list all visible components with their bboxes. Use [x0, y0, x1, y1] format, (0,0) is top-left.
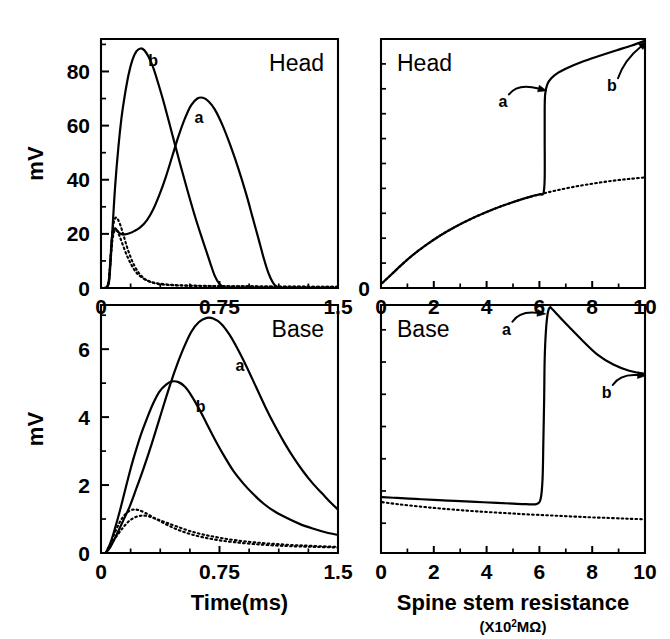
- y-tick-label: 20: [67, 222, 90, 245]
- x-tick-label: 0: [95, 560, 107, 583]
- y-axis-title: mV: [23, 412, 48, 447]
- y-tick-label: 4: [78, 406, 90, 429]
- curve-label-b: b: [196, 398, 206, 415]
- panel-title: Head: [397, 50, 452, 76]
- x-tick-label: 6: [534, 560, 546, 583]
- panel-title: Base: [397, 316, 449, 342]
- figure-canvas: 00.751.5020406080mVHeadba02468100Headab0…: [0, 0, 670, 639]
- annotation-label-b: b: [602, 384, 612, 401]
- x-axis-title-time: Time(ms): [191, 590, 288, 615]
- curve-label-b: b: [148, 52, 158, 69]
- panel-title: Head: [269, 50, 324, 76]
- y-tick-label: 0: [78, 277, 90, 300]
- annotation-label-a: a: [499, 93, 508, 110]
- x-tick-label: 10: [633, 560, 656, 583]
- panel-title: Base: [272, 316, 324, 342]
- y-tick-label: 60: [67, 114, 90, 137]
- annotation-label-a: a: [502, 321, 511, 338]
- y-tick-label: 2: [78, 474, 90, 497]
- x-tick-label: 4: [481, 295, 493, 318]
- units-prefix: (X10: [480, 618, 512, 635]
- figure-root: 00.751.5020406080mVHeadba02468100Headab0…: [0, 0, 670, 639]
- x-tick-label: 2: [428, 295, 440, 318]
- curve-label-a: a: [236, 357, 245, 374]
- annotation-label-b: b: [607, 77, 617, 94]
- x-tick-label: 2: [428, 560, 440, 583]
- curve-label-a: a: [195, 109, 204, 126]
- x-tick-label: 4: [481, 560, 493, 583]
- x-tick-label: 8: [586, 295, 598, 318]
- y-tick-label: 80: [67, 60, 90, 83]
- units-suffix: MΩ): [517, 618, 547, 635]
- y-axis-title: mV: [23, 146, 48, 181]
- x-tick-label: 0: [375, 560, 387, 583]
- y-tick-label: 6: [78, 338, 90, 361]
- x-axis-title-resistance: Spine stem resistance: [397, 590, 629, 615]
- x-tick-label: 1.5: [323, 560, 353, 583]
- y-tick-label: 0: [358, 277, 370, 300]
- x-tick-label: 0.75: [199, 560, 240, 583]
- x-tick-label: 8: [586, 560, 598, 583]
- y-tick-label: 0: [78, 542, 90, 565]
- x-tick-label: 0.75: [199, 295, 240, 318]
- y-tick-label: 40: [67, 168, 90, 191]
